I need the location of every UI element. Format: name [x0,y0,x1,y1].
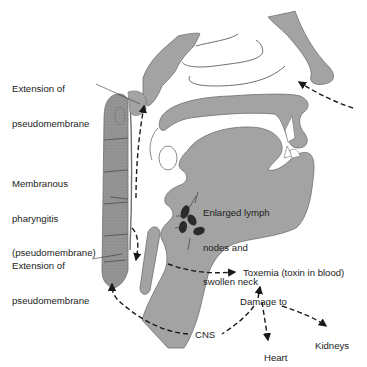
label-damage-to: Damage to [240,296,287,308]
extension-down-arrow [132,228,138,260]
skull-base [143,33,200,106]
label-extension-bottom-line1: Extension of [12,260,89,272]
label-lymph: Enlarged lymph nodes and swollen neck [203,184,270,311]
tonsils [150,128,177,170]
label-lymph-line1: Enlarged lymph [203,207,270,219]
larynx [140,227,160,294]
label-heart: Heart [264,352,287,364]
label-cns: CNS [195,329,215,341]
label-kidneys: Kidneys [315,340,349,352]
spine [102,91,146,288]
label-pharyngitis-line2: pharyngitis [12,213,96,225]
label-extension-top: Extension of pseudomembrane [12,60,89,152]
label-extension-bottom: Extension of pseudomembrane [12,237,89,329]
label-pharyngitis-line1: Membranous [12,178,96,190]
nose [268,11,334,85]
label-extension-top-line2: pseudomembrane [12,118,89,130]
label-extension-bottom-line2: pseudomembrane [12,295,89,307]
label-lymph-line2: nodes and [203,242,270,254]
nasal-turbinates [182,34,285,86]
label-extension-top-line1: Extension of [12,83,89,95]
diagram-stage: Extension of pseudomembrane Membranous p… [0,0,367,367]
damage-to-kidneys-arrow [282,306,326,326]
label-toxemia: Toxemia (toxin in blood) [243,267,344,279]
extension-up-arrow [136,106,144,198]
